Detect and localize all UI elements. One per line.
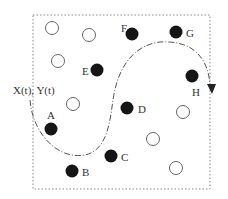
label-e: E: [82, 65, 89, 77]
arrow-head-icon: [207, 84, 216, 94]
label-a: A: [47, 109, 55, 121]
node-b: [66, 165, 79, 178]
open-node: [83, 29, 96, 42]
node-a: [45, 123, 58, 136]
open-node: [46, 22, 59, 35]
open-node: [52, 55, 65, 68]
open-node: [170, 162, 183, 175]
label-c: C: [121, 151, 128, 163]
label-b: B: [82, 166, 89, 178]
label-g: G: [186, 27, 194, 39]
open-node: [177, 106, 190, 119]
node-h: [186, 70, 199, 83]
label-d: D: [138, 103, 146, 115]
open-node: [147, 133, 160, 146]
open-nodes: [46, 22, 190, 175]
label-f: F: [121, 22, 127, 34]
node-f: [126, 28, 139, 41]
node-e: [91, 64, 104, 77]
open-node: [67, 98, 80, 111]
node-g: [170, 26, 183, 39]
label-h: H: [192, 86, 200, 98]
trajectory-diagram: F G E H D A C B X(t), Y(t): [0, 0, 228, 199]
node-d: [121, 102, 134, 115]
path-label: X(t), Y(t): [13, 84, 55, 97]
node-c: [105, 150, 118, 163]
